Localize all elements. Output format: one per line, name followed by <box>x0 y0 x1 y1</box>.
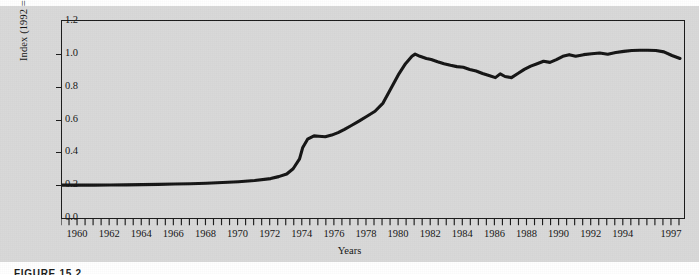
plot-frame: Index (1992 = 1.0) 0.00.20.40.60.81.01.2 <box>61 20 685 219</box>
chart-plot-area <box>62 21 684 218</box>
x-axis-minor-tick-svg <box>61 219 683 226</box>
x-axis-minor-ticks <box>61 219 683 226</box>
bottom-margin <box>0 262 699 274</box>
x-tick-label: 1997 <box>651 229 691 240</box>
top-margin <box>0 0 699 6</box>
figure-caption: FIGURE 15.2 <box>14 268 82 275</box>
y-axis-title: Index (1992 = 1.0) <box>18 0 29 61</box>
x-axis-title: Years <box>0 245 699 256</box>
series-line-index <box>62 50 680 185</box>
x-tick-label: 1994 <box>603 229 643 240</box>
